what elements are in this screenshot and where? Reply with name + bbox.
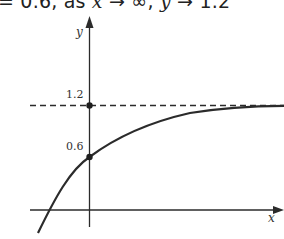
y-axis-label: y bbox=[75, 25, 83, 39]
asymptote-point bbox=[86, 102, 92, 108]
curve bbox=[38, 106, 284, 233]
graph: x y 1.2 0.6 bbox=[0, 0, 284, 239]
intercept-label: 0.6 bbox=[66, 140, 84, 153]
asymptote-label: 1.2 bbox=[66, 88, 84, 101]
y-axis-arrow-icon bbox=[86, 16, 94, 28]
intercept-point bbox=[86, 154, 92, 160]
x-axis-label: x bbox=[268, 211, 275, 225]
